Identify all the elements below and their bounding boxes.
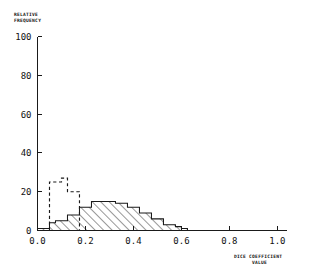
x-tick-label: 0.0 [29, 236, 45, 246]
x-tick-label: 0.6 [173, 236, 189, 246]
x-axis-title-line1: DICE COEFFICIENT [234, 254, 282, 259]
y-tick-label: 60 [21, 110, 32, 120]
x-tick-label: 1.0 [269, 236, 285, 246]
y-tick-label: 100 [15, 32, 31, 42]
y-axis-title-line2: FREQUENCY [14, 18, 41, 23]
x-tick-label: 0.2 [77, 236, 93, 246]
y-axis-title-line1: RELATIVE [14, 12, 38, 17]
histogram-figure: 0204060801000.00.20.40.60.81.0 RELATIVE … [0, 0, 309, 276]
axes [38, 37, 288, 231]
x-tick-label: 0.8 [221, 236, 237, 246]
y-tick-label: 80 [21, 71, 32, 81]
x-tick-label: 0.4 [125, 236, 141, 246]
chart-canvas: 0204060801000.00.20.40.60.81.0 RELATIVE … [0, 0, 309, 276]
y-tick-label: 20 [21, 187, 32, 197]
histogram-hatch-fill [38, 201, 188, 230]
hatched-area [38, 201, 188, 230]
y-tick-label: 0 [26, 226, 31, 236]
x-axis-title-line2: VALUE [252, 260, 267, 265]
y-tick-label: 40 [21, 148, 32, 158]
